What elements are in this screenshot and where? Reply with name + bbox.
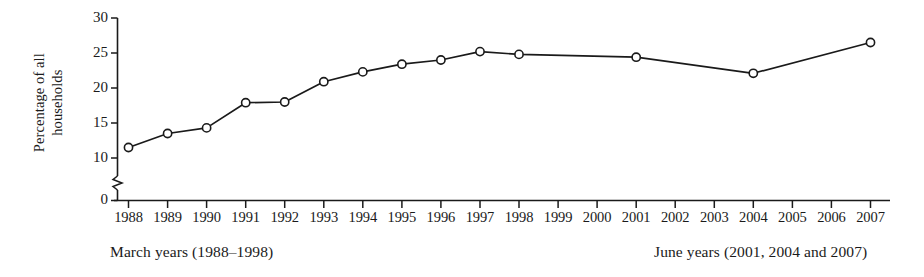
x-axis-ticks xyxy=(129,201,871,209)
y-tick-label-30: 30 xyxy=(78,9,108,26)
y-tick-label-25: 25 xyxy=(78,44,108,61)
y-axis-break-icon xyxy=(113,176,122,190)
y-tick-label-0: 0 xyxy=(78,191,108,208)
data-point-1989 xyxy=(164,129,172,137)
footnote-march-years: March years (1988–1998) xyxy=(110,243,273,261)
data-point-1998 xyxy=(515,50,523,58)
plot-area xyxy=(0,0,924,277)
y-tick-label-10: 10 xyxy=(78,149,108,166)
data-point-1995 xyxy=(398,60,406,68)
data-series-line xyxy=(129,43,871,148)
data-point-1994 xyxy=(359,68,367,76)
y-tick-label-15: 15 xyxy=(78,114,108,131)
data-point-1997 xyxy=(476,48,484,56)
footnote-june-years: June years (2001, 2004 and 2007) xyxy=(654,243,867,261)
data-series-markers xyxy=(124,38,874,151)
y-tick-label-20: 20 xyxy=(78,79,108,96)
data-point-1996 xyxy=(437,56,445,64)
data-point-2004 xyxy=(749,69,757,77)
data-point-1992 xyxy=(281,98,289,106)
data-point-2007 xyxy=(866,38,874,46)
data-point-1990 xyxy=(203,124,211,132)
axis-lines xyxy=(114,18,890,201)
y-axis-ticks xyxy=(111,18,118,201)
data-point-1988 xyxy=(124,143,132,151)
chart-figure: Percentage of all households xyxy=(0,0,924,277)
x-tick-label-2007: 2007 xyxy=(847,209,895,226)
data-point-1993 xyxy=(320,78,328,86)
data-point-1991 xyxy=(242,99,250,107)
data-point-2001 xyxy=(632,53,640,61)
